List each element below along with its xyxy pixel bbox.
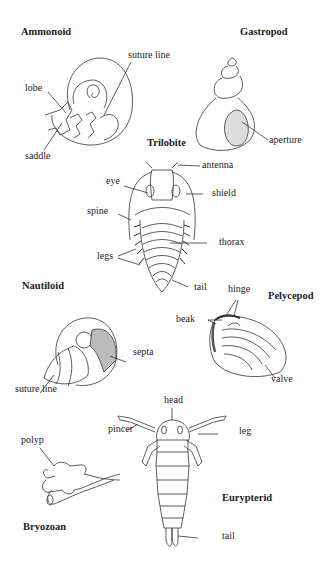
title-eurypterid: Eurypterid [222,492,272,503]
label-thorax: thorax [219,236,245,247]
label-aperture: aperture [269,134,302,145]
bryozoan-drawing [40,448,120,505]
label-ammonoid-suture-line: suture line [128,49,170,60]
label-lobe: lobe [25,82,42,93]
label-eurypterid-tail: tail [222,530,235,541]
pelycepod-drawing [208,300,286,378]
gastropod-drawing [196,58,268,150]
title-gastropod: Gastropod [240,26,288,37]
label-legs: legs [97,250,113,261]
label-spine: spine [87,205,108,216]
label-antenna: antenna [202,159,233,170]
label-trilobite-tail: tail [194,281,207,292]
label-septa: septa [133,346,154,357]
label-valve: valve [271,373,293,384]
eurypterid-drawing [118,408,226,546]
label-leg: leg [239,425,251,436]
label-beak: beak [176,313,195,324]
label-nautiloid-suture-line: suture line [15,383,57,394]
nautiloid-drawing [40,318,126,393]
title-nautiloid: Nautiloid [22,280,64,291]
label-hinge: hinge [228,283,250,294]
label-eye: eye [106,175,120,186]
label-polyp: polyp [21,434,44,445]
ammonoid-drawing [44,58,133,150]
title-ammonoid: Ammonoid [21,26,71,37]
label-pincer: pincer [108,423,133,434]
title-pelycepod: Pelycepod [268,290,314,301]
trilobite-drawing [118,162,207,292]
label-saddle: saddle [25,150,51,161]
label-shield: shield [212,187,236,198]
title-trilobite: Trilobite [147,137,186,148]
title-bryozoan: Bryozoan [23,521,66,532]
label-head: head [164,394,183,405]
